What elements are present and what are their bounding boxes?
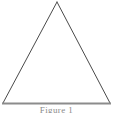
triangle-right-edge <box>57 2 110 103</box>
figure-caption: Figure 1 <box>0 106 113 113</box>
triangle-diagram <box>0 0 113 113</box>
figure-caption-clip: Figure 1 <box>0 106 113 113</box>
triangle-left-edge <box>3 2 57 103</box>
figure-canvas: Figure 1 <box>0 0 113 113</box>
